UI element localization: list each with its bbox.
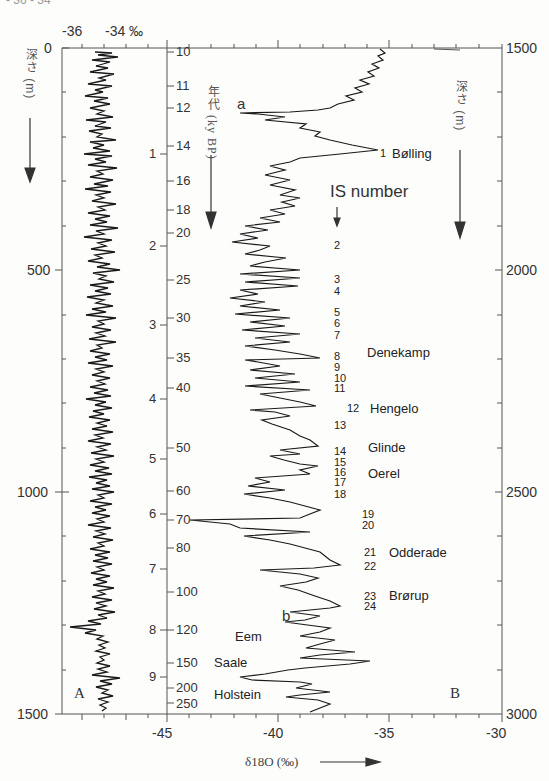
panel-a-tick-minus34: -34 ‰ <box>105 24 143 38</box>
is-18: 18 <box>334 489 346 500</box>
is-17: 17 <box>334 477 346 488</box>
right-depth-tick-1500: 1500 <box>506 41 537 55</box>
age-tick-40: 40 <box>176 381 190 394</box>
age-tick-30: 30 <box>176 311 190 324</box>
period-eem: Eem <box>235 630 262 643</box>
age-tick-250: 250 <box>176 697 198 710</box>
panel-a-tick-minus36: -36 <box>62 24 82 38</box>
period-glinde: Glinde <box>368 441 406 454</box>
is-22: 22 <box>364 561 376 572</box>
x-axis-title: δ18O (‰) <box>245 755 298 768</box>
age-tick-70: 70 <box>176 513 190 526</box>
km-tick-4: 4 <box>149 392 156 405</box>
is-1: 1 <box>380 148 386 159</box>
is-24: 24 <box>364 601 376 612</box>
is-3: 3 <box>334 274 340 285</box>
left-depth-tick-500: 500 <box>27 263 50 277</box>
x-tick-minus40: -40 <box>263 726 283 740</box>
period-brorup: Brørup <box>389 589 429 602</box>
right-depth-arrow <box>455 150 465 238</box>
period-odderade: Odderade <box>389 546 447 559</box>
km-tick-9: 9 <box>149 670 156 683</box>
age-tick-11: 11 <box>176 79 190 92</box>
x-tick-minus45: -45 <box>152 726 172 740</box>
is-7: 7 <box>334 330 340 341</box>
km-tick-8: 8 <box>149 623 156 636</box>
km-tick-1: 1 <box>149 147 156 160</box>
panel-b-top-dash <box>434 49 460 50</box>
marker-a: a <box>237 96 245 111</box>
age-tick-100: 100 <box>176 585 198 598</box>
right-depth-tick-2000: 2000 <box>506 263 537 277</box>
period-holstein: Holstein <box>214 688 261 701</box>
period-bolling: Bølling <box>392 147 432 160</box>
age-tick-60: 60 <box>176 484 190 497</box>
age-tick-50: 50 <box>176 441 190 454</box>
age-tick-10: 10 <box>176 45 190 58</box>
km-tick-7: 7 <box>149 562 156 575</box>
is-number-arrow <box>334 207 340 226</box>
panel-b-label: B <box>450 686 460 701</box>
age-tick-80: 80 <box>176 541 190 554</box>
left-depth-tick-0: 0 <box>44 41 52 55</box>
age-axis <box>160 40 174 714</box>
km-tick-3: 3 <box>149 318 156 331</box>
age-tick-12: 12 <box>176 101 190 114</box>
age-tick-150: 150 <box>176 656 198 669</box>
left-depth-arrow <box>25 118 35 182</box>
age-tick-200: 200 <box>176 681 198 694</box>
km-tick-5: 5 <box>149 452 156 465</box>
age-tick-120: 120 <box>176 623 198 636</box>
km-tick-2: 2 <box>149 239 156 252</box>
is-21: 21 <box>364 547 376 558</box>
age-tick-25: 25 <box>176 273 190 286</box>
is-4: 4 <box>334 286 340 297</box>
period-denekamp: Denekamp <box>367 346 430 359</box>
right-depth-tick-2500: 2500 <box>506 485 537 499</box>
age-arrow <box>206 155 216 228</box>
is-20: 20 <box>362 520 374 531</box>
right-depth-tick-3000: 3000 <box>506 707 537 721</box>
age-axis-title: 年代 (ky BP) <box>204 85 221 160</box>
km-tick-6: 6 <box>149 507 156 520</box>
left-depth-axis-title: 深さ (m) <box>22 48 39 99</box>
is-13: 13 <box>334 420 346 431</box>
is-11: 11 <box>334 383 345 394</box>
age-tick-14: 14 <box>176 139 190 152</box>
period-hengelo: Hengelo <box>370 402 418 415</box>
panel-a-label: A <box>74 686 85 701</box>
marker-b: b <box>282 608 290 623</box>
panel-a-curve <box>70 52 120 711</box>
age-tick-20: 20 <box>176 226 190 239</box>
is-number-title: IS number <box>330 183 408 200</box>
age-tick-16: 16 <box>176 174 190 187</box>
age-tick-18: 18 <box>176 203 190 216</box>
is-2: 2 <box>334 240 340 251</box>
period-saale: Saale <box>214 656 247 669</box>
is-12: 12 <box>347 403 359 414</box>
period-oerel: Oerel <box>368 467 400 480</box>
x-tick-minus35: -35 <box>374 726 394 740</box>
x-axis-arrow <box>320 758 380 766</box>
right-depth-axis-title: 深さ (m) <box>452 80 469 131</box>
age-tick-35: 35 <box>176 351 190 364</box>
left-depth-tick-1000: 1000 <box>17 485 48 499</box>
is-6: 6 <box>334 318 340 329</box>
left-depth-tick-1500: 1500 <box>17 707 48 721</box>
x-tick-minus30: -30 <box>486 726 506 740</box>
